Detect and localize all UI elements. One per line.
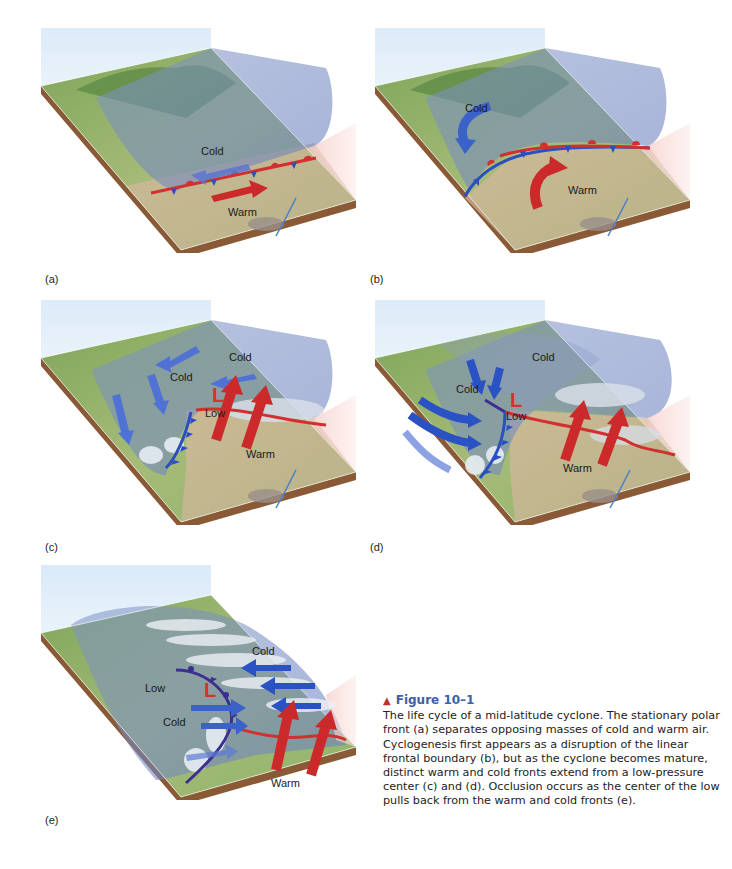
panel-c: Cold Cold L Low Warm <box>36 300 361 525</box>
panel-label-a: (a) <box>45 273 58 285</box>
triangle-marker-icon: ▲ <box>383 695 391 706</box>
cold-label-1: Cold <box>532 351 555 363</box>
panel-b: Cold Warm <box>370 28 695 253</box>
low-label: Low <box>506 410 526 422</box>
warm-label: Warm <box>246 448 275 460</box>
cold-label-2: Cold <box>456 383 479 395</box>
warm-label: Warm <box>568 184 597 196</box>
low-label: Low <box>145 682 165 694</box>
caption-title: Figure 10–1 <box>396 693 475 707</box>
panel-label-c: (c) <box>45 541 58 553</box>
mature-cyclone-diagram: Cold Cold L Low Warm <box>36 300 361 525</box>
caption-body: The life cycle of a mid-latitude cyclone… <box>383 709 723 808</box>
cold-label-1: Cold <box>229 351 252 363</box>
low-marker: L <box>204 679 216 701</box>
cold-label: Cold <box>201 145 224 157</box>
panel-e: Cold Cold L Low Warm <box>36 565 361 800</box>
panel-d: Cold Cold L Low Warm <box>370 300 695 525</box>
occluded-cyclone-diagram: Cold Cold L Low Warm <box>36 565 361 800</box>
low-marker: L <box>510 389 522 411</box>
panel-label-b: (b) <box>370 273 383 285</box>
warm-label: Warm <box>563 462 592 474</box>
cold-label: Cold <box>465 102 488 114</box>
panel-a: Cold Warm <box>36 28 361 253</box>
cold-label-1: Cold <box>252 645 275 657</box>
figure-caption: ▲Figure 10–1 The life cycle of a mid-lat… <box>383 693 723 809</box>
low-marker: L <box>212 384 224 406</box>
cold-label-2: Cold <box>170 371 193 383</box>
warm-label: Warm <box>228 206 257 218</box>
advanced-cyclone-diagram: Cold Cold L Low Warm <box>370 300 695 525</box>
caption-title-row: ▲Figure 10–1 <box>383 693 723 708</box>
cold-label-2: Cold <box>163 716 186 728</box>
warm-label: Warm <box>271 777 300 789</box>
disrupted-front-diagram: Cold Warm <box>370 28 695 253</box>
panel-label-e: (e) <box>45 814 58 826</box>
low-label: Low <box>205 407 225 419</box>
stationary-front-diagram: Cold Warm <box>36 28 361 253</box>
panel-label-d: (d) <box>370 541 383 553</box>
